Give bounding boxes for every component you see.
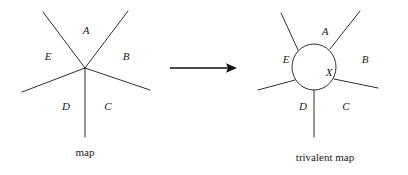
right-edge-upper-left (281, 13, 298, 50)
right-region-label-a: A (321, 25, 329, 37)
right-diagram-caption: trivalent map (296, 151, 355, 163)
left-region-label-b: B (123, 50, 130, 62)
figure-map-to-trivalent-map: A B C D E map X A B C D E trivalent (0, 0, 408, 175)
right-diagram: X A B C D E trivalent map (258, 11, 378, 163)
right-region-label-c: C (342, 100, 350, 112)
left-diagram-caption: map (76, 146, 95, 158)
left-region-label-c: C (104, 100, 112, 112)
left-region-label-d: D (61, 100, 70, 112)
right-edge-lower-left (258, 80, 295, 90)
right-region-label-e: E (282, 53, 290, 65)
right-region-label-b: B (362, 53, 369, 65)
diagram-canvas: A B C D E map X A B C D E trivalent (0, 0, 408, 175)
right-edge-lower-right (334, 79, 378, 88)
transformation-arrow (170, 63, 237, 73)
left-diagram: A B C D E map (22, 11, 150, 158)
right-region-label-d: D (298, 100, 307, 112)
left-region-label-a: A (82, 24, 90, 36)
left-edge-upper-right (85, 11, 128, 68)
right-edge-upper-right (330, 11, 360, 49)
right-vertex-label-x: X (325, 66, 334, 78)
left-region-label-e: E (44, 50, 52, 62)
left-edge-lower-left (22, 68, 85, 92)
left-edge-lower-right (85, 68, 150, 90)
